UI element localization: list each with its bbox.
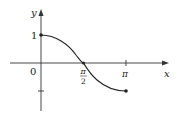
point-start [39, 33, 43, 37]
y-axis-label: y [30, 7, 37, 18]
pi-label: π [121, 69, 129, 79]
y-one-label: 1 [31, 30, 37, 41]
point-end [124, 89, 128, 93]
x-axis-arrow-icon [162, 61, 169, 66]
pi-half-numerator: π [80, 67, 87, 76]
pi-half-denominator: 2 [81, 77, 86, 86]
y-axis-arrow-icon [39, 9, 44, 16]
x-axis-label: x [164, 68, 170, 79]
point-zero-crossing [82, 62, 85, 65]
origin-label: 0 [30, 66, 36, 77]
cosine-graph: y x 0 1 π 2 π [0, 0, 180, 117]
